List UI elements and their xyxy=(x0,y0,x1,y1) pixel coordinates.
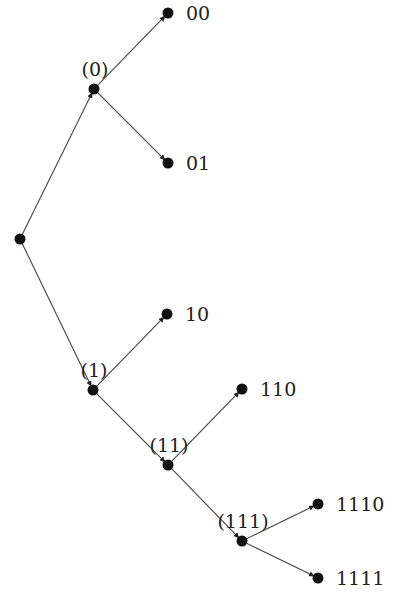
node-label-n1: (1) xyxy=(81,359,108,381)
tree-node-root xyxy=(15,234,26,245)
tree-node-n11 xyxy=(163,460,174,471)
edge-root-to-n0 xyxy=(21,93,92,237)
node-label-n01: 01 xyxy=(186,152,210,174)
node-label-n1111: 1111 xyxy=(336,567,384,589)
tree-node-n0 xyxy=(89,84,100,95)
tree-node-n01 xyxy=(163,158,174,169)
edges-group xyxy=(21,16,314,576)
node-label-n10: 10 xyxy=(185,303,209,325)
node-label-n00: 00 xyxy=(186,2,210,24)
tree-node-n1110 xyxy=(313,499,324,510)
tree-node-n00 xyxy=(163,8,174,19)
node-label-n110: 110 xyxy=(260,378,296,400)
edge-n111-to-n1111 xyxy=(244,542,314,576)
edge-n0-to-n01 xyxy=(95,90,164,159)
labels-group: (0)0001(1)10(11)110(111)11101111 xyxy=(81,2,385,589)
node-label-n1110: 1110 xyxy=(336,493,384,515)
tree-node-n111 xyxy=(237,536,248,547)
nodes-group xyxy=(15,8,324,584)
tree-node-n1 xyxy=(88,385,99,396)
node-label-n11: (11) xyxy=(149,434,188,456)
node-label-n111: (111) xyxy=(217,510,268,532)
node-label-n0: (0) xyxy=(82,58,109,80)
tree-node-n10 xyxy=(162,309,173,320)
tree-node-n1111 xyxy=(313,573,324,584)
tree-node-n110 xyxy=(237,384,248,395)
prefix-tree-diagram: (0)0001(1)10(11)110(111)11101111 xyxy=(0,0,394,606)
